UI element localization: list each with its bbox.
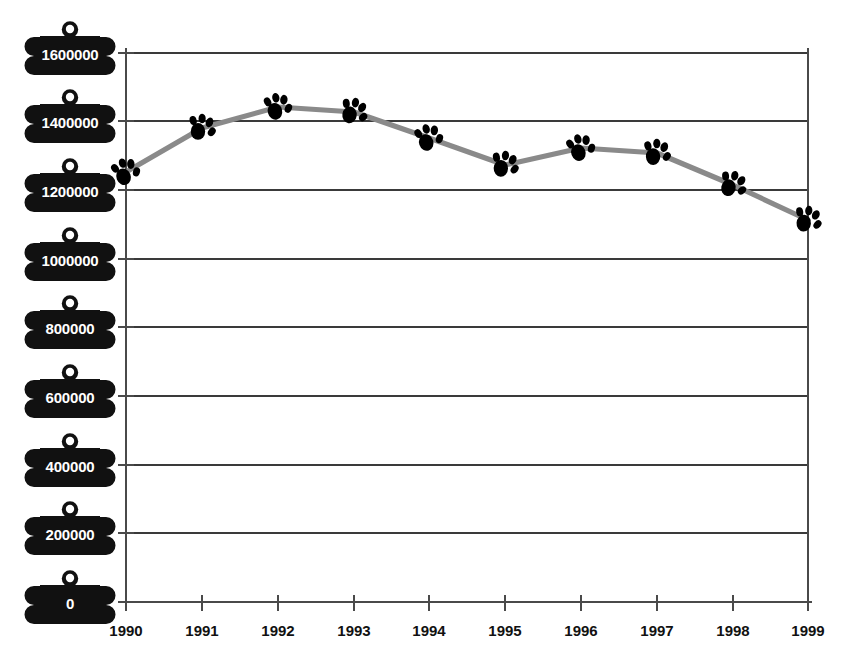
y-tick-label-600000: 600000 [25,364,116,418]
x-tick-marks [126,595,808,611]
y-tick-label-800000: 800000 [25,295,116,349]
y-tick-label-text: 0 [66,595,74,612]
x-axis-labels: 1990 1991 1992 1993 1994 1995 1996 1997 … [109,622,824,639]
y-tick-label-text: 200000 [46,526,95,543]
x-tick-label-1992: 1992 [261,622,294,639]
y-tick-label-text: 1600000 [42,46,99,63]
y-tick-label-1000000: 1000000 [25,227,116,281]
x-tick-label-1998: 1998 [716,622,749,639]
y-tick-label-text: 1400000 [42,114,99,131]
y-tick-label-200000: 200000 [25,501,116,555]
y-tick-label-0: 0 [25,570,116,624]
x-tick-label-1999: 1999 [791,622,824,639]
x-tick-label-1997: 1997 [640,622,673,639]
line-chart: 1600000 1400000 1200000 1000000 800000 6… [0,0,861,667]
y-tick-label-1400000: 1400000 [25,89,116,143]
y-tick-label-1600000: 1600000 [25,21,116,75]
data-point-1998[interactable] [715,167,752,203]
y-tick-label-1200000: 1200000 [25,158,116,212]
x-tick-label-1991: 1991 [185,622,218,639]
y-tick-label-400000: 400000 [25,433,116,487]
x-tick-label-1990: 1990 [109,622,142,639]
chart-container: 1600000 1400000 1200000 1000000 800000 6… [0,0,861,667]
y-tick-label-text: 400000 [46,458,95,475]
data-markers [108,91,826,236]
x-tick-label-1994: 1994 [412,622,446,639]
x-tick-label-1995: 1995 [488,622,521,639]
gridlines [126,53,808,533]
data-point-1996[interactable] [564,131,599,165]
y-tick-label-text: 600000 [46,389,95,406]
y-tick-label-text: 800000 [46,320,95,337]
plot-area [108,48,826,611]
data-point-1992[interactable] [262,91,295,122]
x-tick-label-1993: 1993 [337,622,370,639]
y-axis-labels: 1600000 1400000 1200000 1000000 800000 6… [25,21,116,624]
data-point-1994[interactable] [412,121,447,154]
y-tick-label-text: 1000000 [42,252,99,269]
x-tick-label-1996: 1996 [564,622,597,639]
data-point-1991[interactable] [186,112,220,144]
y-tick-label-text: 1200000 [42,183,99,200]
data-line-series-1 [126,107,808,220]
